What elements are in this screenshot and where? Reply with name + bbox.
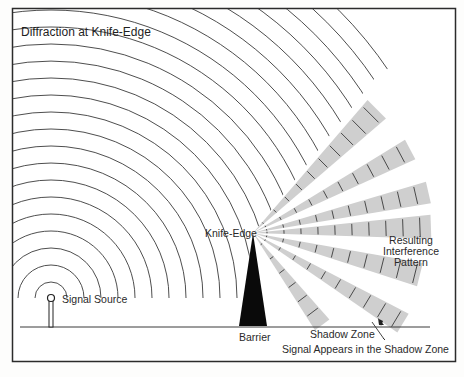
resulting-pattern-label: Resulting Interference Pattern bbox=[366, 235, 456, 268]
resulting-line-3: Pattern bbox=[366, 257, 456, 268]
barrier-label: Barrier bbox=[239, 332, 271, 343]
signal-appears-label: Signal Appears in the Shadow Zone bbox=[282, 344, 449, 355]
diagram-title: Diffraction at Knife-Edge bbox=[21, 26, 151, 38]
signal-source-label: Signal Source bbox=[62, 294, 127, 305]
shadow-zone-label: Shadow Zone bbox=[310, 329, 375, 340]
antenna-icon bbox=[48, 295, 55, 328]
diffraction-diagram bbox=[0, 0, 464, 377]
knife-edge-label: Knife-Edge bbox=[205, 228, 257, 239]
